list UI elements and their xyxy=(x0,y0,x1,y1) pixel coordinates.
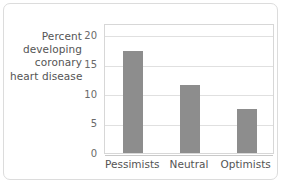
y-tick-label-10: 10 xyxy=(77,90,97,100)
bar-optimists xyxy=(237,109,257,153)
gridline-0 xyxy=(105,155,273,156)
y-tick-label-15: 15 xyxy=(77,60,97,70)
y-axis-title: Percent developing coronary heart diseas… xyxy=(10,30,82,83)
y-tick-label-20: 20 xyxy=(77,31,97,41)
bar-pessimists xyxy=(123,51,143,153)
y-tick-label-5: 5 xyxy=(77,119,97,129)
plot-area xyxy=(104,24,274,154)
y-axis-title-line-2: developing xyxy=(10,43,82,56)
y-axis-title-line-4: heart disease xyxy=(10,70,82,83)
bar-neutral xyxy=(180,85,200,153)
chart-figure-frame: Percent developing coronary heart diseas… xyxy=(3,3,278,180)
x-tick-label-optimists: Optimists xyxy=(196,158,283,170)
bar-series xyxy=(105,25,273,153)
y-axis-title-line-1: Percent xyxy=(10,30,82,43)
y-axis-title-line-3: coronary xyxy=(10,56,82,69)
